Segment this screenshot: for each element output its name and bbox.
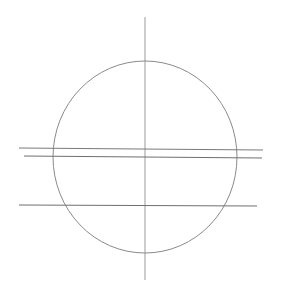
horizontal-line-2 [24, 156, 262, 158]
horizontal-line-3 [19, 205, 257, 206]
horizontal-line-1 [19, 148, 263, 150]
horizontal-lines [19, 148, 263, 206]
diagram-canvas [0, 0, 281, 298]
